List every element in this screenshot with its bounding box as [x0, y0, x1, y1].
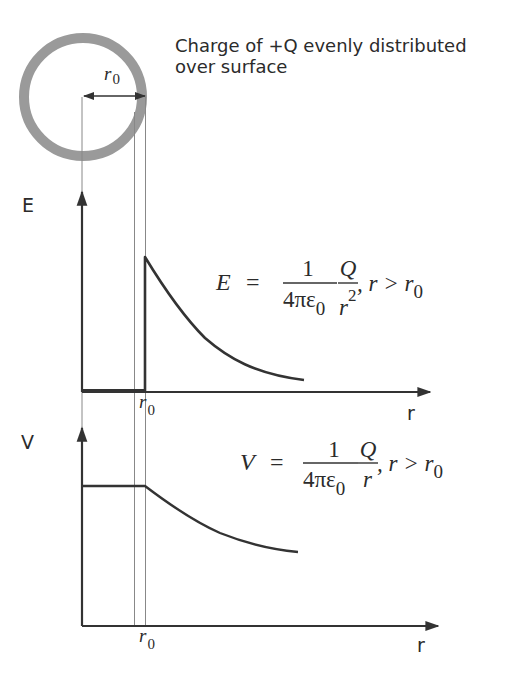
shell-field-potential-diagram: r0 Charge of +Q evenly distributed over … [0, 0, 513, 687]
e-formula-num1: 1 [302, 256, 314, 281]
v-r-axis-label: r [417, 634, 425, 656]
e-formula-condition: , r > r0 [357, 271, 423, 302]
e-formula-lhs: E [215, 269, 231, 295]
shell-ring [24, 38, 142, 156]
shell-description: Charge of +Q evenly distributed [175, 35, 467, 56]
e-field-curve [82, 257, 304, 391]
e-r0-label: r0 [139, 391, 155, 418]
v-formula-lhs: V [240, 449, 257, 475]
v-formula-eq: = [270, 449, 284, 475]
e-field-graph: E r r0 E = 1 4πε0 Q r2 , r > r0 [22, 192, 430, 424]
v-formula-den2: r [363, 467, 373, 492]
e-formula-num2: Q [340, 256, 357, 281]
e-formula: E = 1 4πε0 Q r2 , r > r0 [215, 256, 423, 320]
e-r-axis-label: r [407, 402, 415, 424]
e-zero-inside [82, 389, 145, 393]
radius-label: r0 [104, 63, 120, 87]
potential-curve [82, 486, 298, 552]
charged-shell: r0 [24, 38, 145, 156]
v-formula: V = 1 4πε0 Q r , r > r0 [240, 437, 443, 499]
v-formula-num1: 1 [328, 437, 340, 462]
e-formula-eq: = [246, 269, 260, 295]
v-formula-den1: 4πε0 [303, 467, 345, 499]
e-axis-label: E [22, 194, 34, 216]
v-formula-num2: Q [360, 437, 377, 462]
potential-graph: V r r0 V = 1 4πε0 Q r , r > r0 [21, 428, 443, 656]
v-r0-label: r0 [139, 625, 155, 652]
guide-lines [82, 96, 146, 626]
v-formula-condition: , r > r0 [377, 451, 443, 482]
e-formula-den1: 4πε0 [283, 287, 325, 319]
shell-description-line2: over surface [175, 56, 287, 77]
e-formula-den2: r2 [339, 286, 356, 320]
v-axis-label: V [21, 431, 34, 453]
